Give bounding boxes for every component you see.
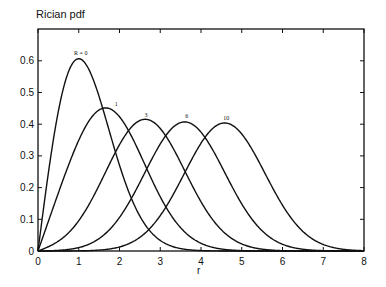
curve-label: 3	[144, 112, 147, 118]
curve-3	[38, 119, 364, 251]
x-tick-label: 4	[198, 256, 204, 267]
y-tick-label: 0.4	[20, 119, 34, 130]
x-tick-label: 3	[157, 256, 163, 267]
x-tick-label: 2	[117, 256, 123, 267]
x-tick-label: 1	[76, 256, 82, 267]
x-axis-ticks: 012345678	[35, 29, 367, 267]
y-tick-label: 0.1	[20, 214, 34, 225]
y-tick-label: 0.2	[20, 182, 34, 193]
y-tick-label: 0.6	[20, 55, 34, 66]
curve-r0	[38, 59, 364, 251]
curve-10	[38, 123, 364, 251]
curve-label: 1	[115, 101, 118, 107]
x-tick-label: 5	[239, 256, 245, 267]
plot-frame	[38, 29, 364, 251]
curve-1	[38, 108, 364, 251]
y-tick-label: 0.5	[20, 87, 34, 98]
curve-label: R = 0	[74, 50, 87, 56]
curve-label: 10	[223, 115, 229, 121]
y-tick-label: 0.3	[20, 150, 34, 161]
rician-pdf-chart: 012345678 00.10.20.30.40.50.6 R = 013610	[0, 0, 386, 287]
x-tick-label: 7	[320, 256, 326, 267]
x-tick-label: 0	[35, 256, 41, 267]
curve-label: 6	[185, 113, 188, 119]
curves-group	[38, 59, 364, 251]
x-tick-label: 8	[361, 256, 367, 267]
x-tick-label: 6	[280, 256, 286, 267]
y-tick-label: 0	[28, 246, 34, 257]
curve-6	[38, 122, 364, 251]
